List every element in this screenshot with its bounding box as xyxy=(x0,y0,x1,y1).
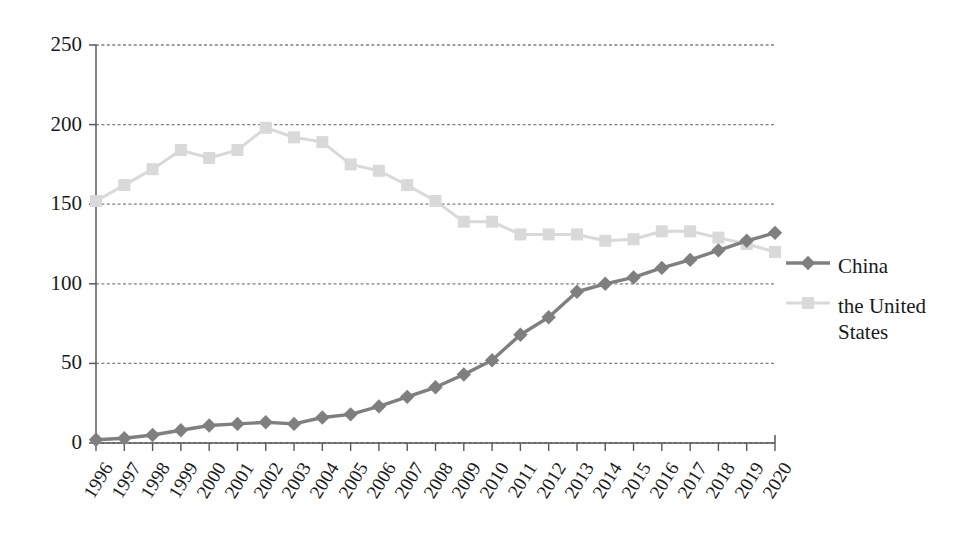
line-chart: 250200150100500 199619971998199920002001… xyxy=(0,0,964,536)
data-point-marker xyxy=(802,297,814,309)
data-point-marker xyxy=(345,158,357,170)
data-point-marker xyxy=(231,144,243,156)
x-axis-tick-marks xyxy=(96,443,775,451)
y-tick-label: 0 xyxy=(20,432,82,453)
data-point-marker xyxy=(400,390,414,404)
data-point-marker xyxy=(656,225,668,237)
data-point-marker xyxy=(118,179,130,191)
data-point-marker xyxy=(287,417,301,431)
data-point-marker xyxy=(458,216,470,228)
y-tick-label: 150 xyxy=(20,193,82,214)
data-point-marker xyxy=(655,261,669,275)
data-point-marker xyxy=(372,399,386,413)
data-point-marker xyxy=(457,367,471,381)
chart-canvas xyxy=(0,0,964,536)
data-point-marker xyxy=(486,216,498,228)
data-point-marker xyxy=(684,225,696,237)
data-point-marker xyxy=(315,410,329,424)
data-point-marker xyxy=(769,246,781,258)
data-point-marker xyxy=(514,228,526,240)
legend-label-us-line1: the United xyxy=(838,294,926,318)
legend-item-china: China xyxy=(838,254,964,280)
data-point-marker xyxy=(202,418,216,432)
series-the-united-states xyxy=(90,122,781,258)
data-point-marker xyxy=(145,428,159,442)
y-axis-tick-marks xyxy=(89,45,96,443)
series-china xyxy=(89,226,782,447)
data-point-marker xyxy=(343,407,357,421)
data-point-marker xyxy=(712,232,724,244)
data-point-marker xyxy=(599,235,611,247)
data-point-marker xyxy=(768,226,782,240)
data-point-marker xyxy=(174,423,188,437)
data-point-marker xyxy=(430,195,442,207)
y-tick-label: 200 xyxy=(20,114,82,135)
legend-swatches xyxy=(786,256,830,309)
data-point-marker xyxy=(401,179,413,191)
data-point-marker xyxy=(626,270,640,284)
data-point-marker xyxy=(316,136,328,148)
data-point-marker xyxy=(203,152,215,164)
data-point-marker xyxy=(260,122,272,134)
legend-item-the-united-states: the United States xyxy=(838,294,964,345)
data-point-marker xyxy=(628,233,640,245)
data-point-marker xyxy=(230,417,244,431)
data-point-marker xyxy=(543,228,555,240)
y-tick-label: 50 xyxy=(20,352,82,373)
series-line xyxy=(96,128,775,252)
legend-label-us-line2: States xyxy=(838,320,888,344)
data-point-marker xyxy=(711,243,725,257)
data-point-marker xyxy=(801,256,815,270)
data-point-marker xyxy=(259,415,273,429)
data-point-marker xyxy=(571,228,583,240)
data-point-marker xyxy=(683,253,697,267)
y-tick-label: 100 xyxy=(20,273,82,294)
data-point-marker xyxy=(288,131,300,143)
data-point-marker xyxy=(373,165,385,177)
data-point-marker xyxy=(89,433,103,447)
series-line xyxy=(96,233,775,440)
y-tick-label: 250 xyxy=(20,34,82,55)
data-point-marker xyxy=(90,195,102,207)
data-point-marker xyxy=(428,380,442,394)
data-point-marker xyxy=(598,277,612,291)
legend-label-china-line1: China xyxy=(838,254,888,278)
data-point-marker xyxy=(175,144,187,156)
data-point-marker xyxy=(147,163,159,175)
